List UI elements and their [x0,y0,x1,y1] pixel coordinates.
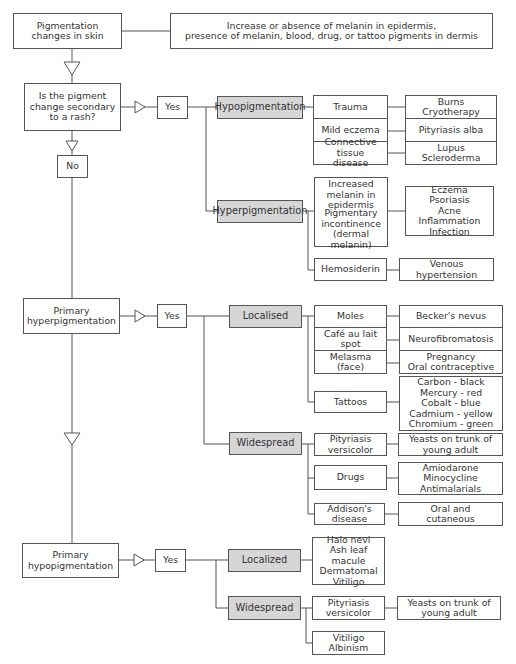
right-arrow-icon [135,101,145,113]
yes-node: Yes [157,304,187,328]
example-tattoo-pigments: Carbon - black Mercury - red Cobalt - bl… [399,376,503,431]
cause-vitiligo-albinism: Vitiligo Albinism [312,631,385,655]
question-node: Is the pigment change secondary to a ras… [24,83,121,131]
category-widespread: Widespread [229,432,302,455]
example-lupus: Lupus Scleroderma [405,142,497,165]
cause-connective-tissue: Connective tissue disease [313,142,388,165]
cause-hemosiderin: Hemosiderin [314,258,387,281]
example-neurofibromatosis: Neurofibromatosis [399,328,503,351]
cause-drugs: Drugs [314,465,387,490]
cause-melasma: Melasma (face) [314,351,387,374]
cause-pigmentary-incontinence: Pigmentary incontinence (dermal melanin) [314,212,388,247]
category-localized: Localized [228,549,301,572]
category-widespread: Widespread [228,596,301,620]
pigmentation-flowchart: Pigmentation changes in skin Increase or… [0,0,516,664]
category-localised: Localised [229,305,302,328]
example-pityriasis-alba: Pityriasis alba [405,119,497,142]
category-hypopigmentation: Hypopigmentation [217,96,303,119]
down-arrow-icon [64,433,80,445]
cause-trauma: Trauma [313,95,388,119]
cause-tattoos: Tattoos [314,391,387,413]
yes-node: Yes [155,549,186,572]
primary-hypopigmentation-node: Primary hypopigmentation [22,543,119,578]
down-arrow-icon [64,62,80,75]
example-venous-hypertension: Venous hypertension [399,258,494,281]
cause-pityriasis-versicolor: Pityriasis versicolor [314,433,387,456]
root-description: Increase or absence of melanin in epider… [170,13,493,49]
example-drugs: Amiodarone Minocycline Antimalarials [398,462,503,495]
cause-moles: Moles [314,305,387,328]
example-beckers-nevus: Becker's nevus [399,305,503,328]
example-burns: Burns Cryotherapy [405,95,497,119]
yes-node: Yes [157,96,188,119]
example-yeasts: Yeasts on trunk of young adult [397,596,501,620]
right-arrow-icon [135,310,145,322]
cause-pityriasis-versicolor: Pityriasis versicolor [312,596,385,620]
primary-hyperpigmentation-node: Primary hyperpigmentation [23,298,120,334]
example-halo-nevi: Halo nevi Ash leaf macule Dermatomal Vit… [312,537,385,585]
root-node: Pigmentation changes in skin [13,13,122,49]
example-eczema-group: Eczema Psoriasis Acne Inflammation Infec… [405,186,494,236]
example-yeasts: Yeasts on trunk of young adult [398,433,503,456]
cause-addisons: Addison's disease [314,503,385,525]
example-pregnancy: Pregnancy Oral contraceptive [399,351,503,374]
category-hyperpigmentation: Hyperpigmentation [217,200,303,223]
no-node: No [57,155,88,178]
cause-cafe-au-lait: Café au lait spot [314,328,387,351]
right-arrow-icon [134,554,144,566]
example-oral-cutaneous: Oral and cutaneous [398,502,503,526]
down-arrow-icon [66,141,78,151]
